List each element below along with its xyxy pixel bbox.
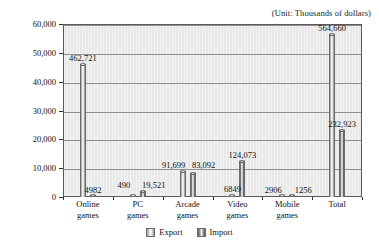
x-axis-category-label: Mobilegames <box>275 199 300 221</box>
bar-cap <box>190 172 196 175</box>
bar-export[interactable] <box>279 195 285 197</box>
value-label-export: 462,721 <box>69 53 97 63</box>
value-label-export: 6849 <box>224 184 241 194</box>
x-axis-label-line: Mobile <box>275 199 300 210</box>
x-axis-label-line: games <box>275 210 300 221</box>
x-axis-label-line: games <box>175 210 200 221</box>
x-axis: OnlinegamesPCgamesArcadegamesVideogamesM… <box>0 199 379 229</box>
value-label-import: 232,923 <box>328 119 356 129</box>
value-label-export: 2906 <box>265 185 282 195</box>
legend-item-import[interactable]: Import <box>197 227 233 237</box>
x-axis-label-line: games <box>227 210 249 221</box>
x-axis-category-label: Onlinegames <box>76 199 99 221</box>
x-axis-label-line: Video <box>227 199 249 210</box>
value-label-import: 19,521 <box>142 180 165 190</box>
bar-export[interactable] <box>229 195 235 197</box>
bar-cap <box>329 33 335 36</box>
chart-legend: ExportImport <box>0 227 379 237</box>
bar-export[interactable] <box>80 64 86 197</box>
legend-label: Import <box>210 227 233 237</box>
value-label-import: 1256 <box>295 185 312 195</box>
x-axis-label-line: games <box>127 210 149 221</box>
value-label-export: 91,699 <box>162 160 185 170</box>
chart-root: (Unit: Thousands of dollars) 010,00020,0… <box>0 0 379 252</box>
value-label-export: 564,660 <box>318 23 346 33</box>
legend-swatch-export <box>146 228 155 237</box>
bar-cap <box>80 63 86 66</box>
legend-swatch-import <box>197 228 206 237</box>
bar-cap <box>339 129 345 132</box>
bar-cap <box>229 194 235 197</box>
x-axis-category-label: Total <box>328 199 345 210</box>
legend-item-export[interactable]: Export <box>146 227 182 237</box>
value-label-export: 490 <box>117 180 130 190</box>
bar-import[interactable] <box>339 130 345 197</box>
legend-label: Export <box>159 227 182 237</box>
bar-import[interactable] <box>289 195 295 197</box>
x-axis-category-label: Arcadegames <box>175 199 200 221</box>
bar-import[interactable] <box>190 173 196 197</box>
x-axis-category-label: Videogames <box>227 199 249 221</box>
bar-import[interactable] <box>90 195 96 197</box>
bar-cap <box>239 160 245 163</box>
bar-export[interactable] <box>180 171 186 197</box>
x-axis-category-label: PCgames <box>127 199 149 221</box>
x-axis-label-line: Online <box>76 199 99 210</box>
bar-cap <box>130 194 136 197</box>
x-axis-label-line: Arcade <box>175 199 200 210</box>
x-axis-label-line: games <box>76 210 99 221</box>
value-label-import: 4982 <box>84 185 101 195</box>
bar-import[interactable] <box>140 191 146 197</box>
bar-cap <box>140 190 146 193</box>
x-axis-label-line: Total <box>328 199 345 210</box>
value-label-import: 124,073 <box>229 150 257 160</box>
x-axis-label-line: PC <box>127 199 149 210</box>
bar-cap <box>180 170 186 173</box>
bar-export[interactable] <box>329 34 335 197</box>
bar-export[interactable] <box>130 195 136 197</box>
value-label-import: 83,092 <box>192 160 215 170</box>
